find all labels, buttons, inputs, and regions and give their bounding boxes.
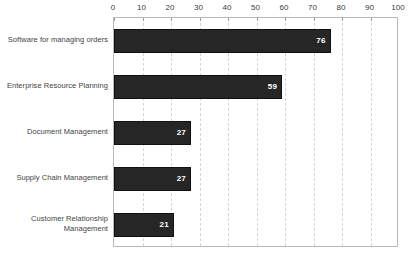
x-tick-label-40: 40 — [222, 2, 231, 13]
tick-mark-10 — [143, 18, 144, 21]
x-tick-label-100: 100 — [391, 2, 405, 13]
bar-row: 21 — [114, 213, 397, 237]
x-tick-label-90: 90 — [365, 2, 374, 13]
category-label: Document Management — [5, 127, 113, 137]
x-tick-label-20: 20 — [165, 2, 174, 13]
bar-value-label: 59 — [268, 83, 281, 91]
x-tick-label-30: 30 — [194, 2, 203, 13]
bar: 21 — [114, 213, 174, 237]
category-label: Supply Chain Management — [5, 173, 113, 183]
bar-chart: 0102030405060708090100 Software for mana… — [0, 0, 416, 259]
tick-mark-30 — [200, 18, 201, 21]
tick-mark-90 — [371, 18, 372, 21]
bar-row: 59 — [114, 75, 397, 99]
bar-row: 76 — [114, 29, 397, 53]
category-label: Enterprise Resource Planning — [5, 81, 113, 91]
bar-value-label: 21 — [160, 221, 173, 229]
bar: 27 — [114, 167, 191, 191]
x-axis-tick-labels: 0102030405060708090100 — [113, 0, 398, 17]
x-tick-label-60: 60 — [279, 2, 288, 13]
bar: 27 — [114, 121, 191, 145]
tick-mark-50 — [257, 18, 258, 21]
category-label: Software for managing orders — [5, 35, 113, 45]
x-tick-label-0: 0 — [111, 2, 116, 13]
x-tick-label-50: 50 — [251, 2, 260, 13]
x-tick-label-80: 80 — [336, 2, 345, 13]
bar-row: 27 — [114, 167, 397, 191]
tick-mark-0 — [114, 18, 115, 21]
tick-mark-40 — [228, 18, 229, 21]
plot-area: 7659272721 — [113, 17, 398, 247]
bar: 76 — [114, 29, 331, 53]
category-label: Customer Relationship Management — [5, 214, 113, 234]
tick-mark-20 — [171, 18, 172, 21]
tick-mark-80 — [342, 18, 343, 21]
tick-mark-70 — [314, 18, 315, 21]
bar-row: 27 — [114, 121, 397, 145]
tick-mark-60 — [285, 18, 286, 21]
bar-value-label: 76 — [316, 37, 329, 45]
y-axis-category-labels: Software for managing ordersEnterprise R… — [0, 17, 113, 247]
x-tick-label-70: 70 — [308, 2, 317, 13]
bar: 59 — [114, 75, 282, 99]
bar-value-label: 27 — [177, 175, 190, 183]
bar-value-label: 27 — [177, 129, 190, 137]
x-tick-label-10: 10 — [137, 2, 146, 13]
